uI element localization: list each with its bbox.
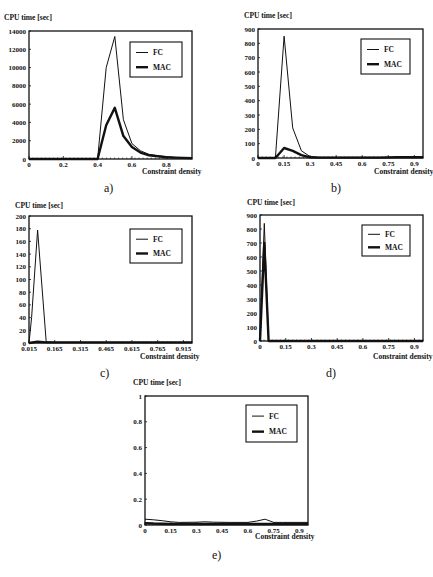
legend-label-mac: MAC — [384, 60, 402, 69]
y-tick-label: 14000 — [9, 28, 27, 36]
y-tick-label: 300 — [247, 296, 258, 304]
x-tick-label: 0.165 — [47, 345, 63, 353]
y-tick-label: 100 — [247, 324, 258, 332]
x-tick-label: 0.75 — [383, 343, 396, 351]
x-tick-label: 0.45 — [330, 160, 343, 168]
x-tick-label: 0.15 — [165, 527, 178, 535]
x-tick-label: 0.6 — [359, 343, 368, 351]
y-tick-label: 100 — [16, 276, 27, 284]
y-axis-title: CPU time [sec] — [133, 378, 181, 387]
x-tick-label: 0.6 — [128, 161, 137, 169]
y-tick-label: 100 — [245, 140, 256, 148]
series-line-mac — [260, 243, 423, 341]
y-tick-label: 40 — [19, 314, 27, 322]
y-tick-label: 500 — [245, 83, 256, 91]
chart-panel-b: 010020030040050060070080090000.150.30.45… — [244, 11, 433, 195]
x-tick-label: 0 — [27, 161, 31, 169]
y-tick-label: 10000 — [9, 64, 27, 72]
y-tick-label: 2000 — [12, 137, 27, 145]
y-tick-label: 0.6 — [133, 444, 142, 452]
y-tick-label: 140 — [16, 251, 27, 259]
y-tick-label: 500 — [247, 268, 258, 276]
y-axis-title: CPU time [sec] — [4, 13, 52, 22]
chart-panel-e: 00.20.40.60.8100.150.30.450.60.750.9FCMA… — [133, 378, 315, 562]
y-tick-label: 20 — [19, 327, 27, 335]
y-tick-label: 0 — [139, 522, 143, 530]
x-tick-label: 0.15 — [278, 160, 291, 168]
y-tick-label: 80 — [19, 289, 27, 297]
legend-label-mac: MAC — [269, 427, 287, 436]
y-tick-label: 200 — [245, 126, 256, 134]
legend-label-fc: FC — [153, 235, 163, 244]
charts-canvas: 0200040006000800010000120001400000.20.40… — [0, 0, 433, 577]
x-tick-label: 0.3 — [306, 160, 315, 168]
y-axis-title: CPU time [sec] — [247, 198, 295, 207]
chart-panel-d: 010020030040050060070080090000.150.30.45… — [247, 198, 433, 380]
y-tick-label: 200 — [247, 310, 258, 318]
x-tick-label: 0.315 — [73, 345, 89, 353]
y-tick-label: 700 — [245, 54, 256, 62]
chart-panel-a: 0200040006000800010000120001400000.20.40… — [4, 13, 202, 195]
y-tick-label: 400 — [247, 282, 258, 290]
y-tick-label: 700 — [247, 240, 258, 248]
x-axis-title: Constraint density — [374, 167, 433, 176]
panel-label: a) — [104, 181, 113, 195]
y-axis-title: CPU time [sec] — [244, 11, 292, 20]
legend: FCMAC — [130, 229, 182, 263]
y-tick-label: 800 — [247, 226, 258, 234]
y-tick-label: 0.8 — [133, 418, 142, 426]
y-tick-label: 8000 — [12, 82, 27, 90]
y-tick-label: 0.2 — [133, 496, 142, 504]
x-tick-label: 0.9 — [410, 343, 419, 351]
y-tick-label: 6000 — [12, 101, 27, 109]
x-tick-label: 0.615 — [124, 345, 140, 353]
y-tick-label: 300 — [245, 112, 256, 120]
x-tick-label: 0.6 — [358, 160, 367, 168]
x-tick-label: 0.45 — [216, 527, 229, 535]
y-tick-label: 60 — [19, 301, 27, 309]
y-axis-title: CPU time [sec] — [15, 201, 63, 210]
x-tick-label: 0 — [256, 160, 260, 168]
series-line-mac — [29, 342, 192, 343]
x-tick-label: 0 — [258, 343, 262, 351]
y-tick-label: 800 — [245, 40, 256, 48]
y-tick-label: 0 — [252, 155, 256, 163]
y-tick-label: 0 — [23, 156, 27, 164]
panel-label: d) — [326, 366, 336, 380]
panel-label: e) — [212, 548, 221, 562]
x-tick-label: 0.465 — [98, 345, 114, 353]
x-tick-label: 0.4 — [93, 161, 102, 169]
x-tick-label: 0.45 — [331, 343, 344, 351]
y-tick-label: 900 — [247, 212, 258, 220]
x-tick-label: 0.3 — [192, 527, 201, 535]
y-tick-label: 400 — [245, 97, 256, 105]
legend: FCMAC — [361, 39, 410, 74]
series-line-mac — [145, 523, 308, 524]
y-tick-label: 4000 — [12, 119, 27, 127]
legend: FCMAC — [362, 225, 410, 256]
panel-label: b) — [331, 181, 341, 195]
y-tick-label: 200 — [16, 213, 27, 221]
x-tick-label: 0 — [143, 527, 147, 535]
legend-label-fc: FC — [153, 48, 163, 57]
y-tick-label: 0 — [254, 338, 258, 346]
y-tick-label: 120 — [16, 263, 27, 271]
y-tick-label: 600 — [245, 69, 256, 77]
legend: FCMAC — [130, 42, 182, 77]
x-axis-title: Constraint density — [140, 352, 200, 361]
y-tick-label: 900 — [245, 26, 256, 34]
x-tick-label: 0.6 — [244, 527, 253, 535]
legend-label-mac: MAC — [153, 63, 171, 72]
x-tick-label: 0.2 — [59, 161, 68, 169]
x-tick-label: 0.3 — [307, 343, 316, 351]
x-tick-label: 0.15 — [280, 343, 293, 351]
legend-label-fc: FC — [385, 230, 395, 239]
y-tick-label: 0.4 — [133, 470, 142, 478]
legend-label-mac: MAC — [153, 249, 171, 258]
legend: FCMAC — [246, 405, 297, 442]
legend-label-fc: FC — [269, 412, 279, 421]
series-line-fc — [145, 519, 308, 522]
y-tick-label: 600 — [247, 254, 258, 262]
x-axis-title: Constraint density — [142, 167, 202, 176]
legend-label-fc: FC — [384, 45, 394, 54]
